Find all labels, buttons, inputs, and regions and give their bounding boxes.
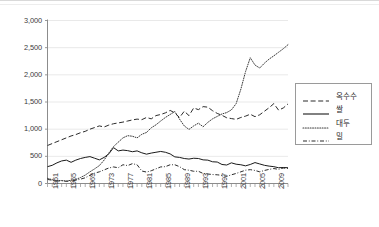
x-tick-label: 2005 xyxy=(258,173,267,189)
legend-label: 쌀 xyxy=(336,106,343,114)
data-series-group xyxy=(48,45,289,182)
x-tick-label: 2001 xyxy=(239,173,248,189)
legend-item[interactable]: 대두 xyxy=(296,117,371,130)
x-tick-label: 1961 xyxy=(51,173,60,189)
x-tick-label: 1981 xyxy=(145,173,154,189)
chart-legend: 옥수수쌀대두밀 xyxy=(295,83,372,145)
axes xyxy=(48,20,289,184)
x-tick-label: 1985 xyxy=(164,173,173,189)
x-tick-label: 1973 xyxy=(107,173,116,189)
gridlines xyxy=(48,21,289,157)
legend-item[interactable]: 쌀 xyxy=(296,104,371,117)
y-tick-label: 2,000 xyxy=(8,70,42,79)
x-tick-label: 2009 xyxy=(277,173,286,189)
y-tick-label: 500 xyxy=(8,151,42,160)
y-tick-label: 3,000 xyxy=(8,16,42,25)
x-tick-label: 1965 xyxy=(69,173,78,189)
legend-line-sample xyxy=(302,92,330,102)
y-tick-label: 1,500 xyxy=(8,97,42,106)
legend-line-sample xyxy=(302,105,330,115)
series-line-1 xyxy=(48,104,289,146)
x-tick-label: 1977 xyxy=(126,173,135,189)
series-line-2 xyxy=(48,148,289,168)
x-tick-label: 1993 xyxy=(201,173,210,189)
series-line-3 xyxy=(48,45,289,181)
y-tick-label: 1,000 xyxy=(8,124,42,133)
chart-container: 05001,0001,5002,0002,5003,000 1961196519… xyxy=(0,0,379,227)
legend-line-sample xyxy=(302,132,330,142)
legend-item[interactable]: 밀 xyxy=(296,131,371,144)
legend-label: 대두 xyxy=(336,120,350,128)
legend-label: 옥수수 xyxy=(336,93,357,101)
y-tick-label: 2,500 xyxy=(8,43,42,52)
x-tick-label: 1969 xyxy=(88,173,97,189)
legend-item[interactable]: 옥수수 xyxy=(296,90,371,103)
legend-line-sample xyxy=(302,119,330,129)
legend-label: 밀 xyxy=(336,133,343,141)
y-tick-label: 0 xyxy=(8,179,42,188)
x-tick-label: 1997 xyxy=(220,173,229,189)
x-tick-label: 1989 xyxy=(183,173,192,189)
